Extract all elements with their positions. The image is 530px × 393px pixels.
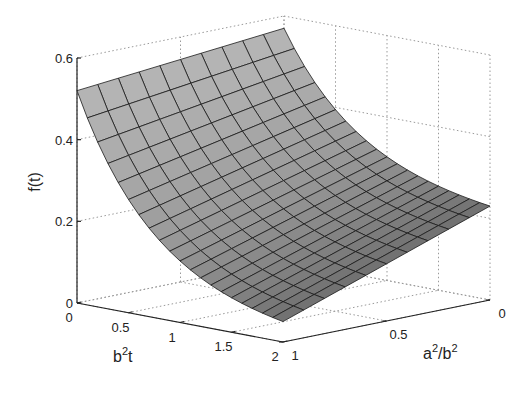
z-tick-label: 0.2 [55, 214, 73, 229]
x-tick [129, 312, 133, 313]
z-axis-label: f(t) [26, 172, 43, 192]
y-axis-label: a2/b2 [423, 342, 458, 362]
z-tick-label: 0.4 [55, 133, 73, 148]
plot-canvas: 00.20.40.600.511.5200.51 f(t) b2t a2/b2 [0, 0, 530, 393]
surface-mesh [77, 28, 490, 321]
x-tick-label: 2 [271, 349, 278, 364]
x-tick [232, 331, 236, 332]
y-tick-label: 1 [291, 348, 298, 363]
x-tick-label: 1 [168, 330, 175, 345]
grid-line [284, 16, 490, 55]
surface-plot-figure: 00.20.40.600.511.5200.51 f(t) b2t a2/b2 [0, 0, 530, 393]
x-tick-label: 1.5 [214, 339, 232, 354]
x-tick-label: 0.5 [111, 320, 129, 335]
y-tick-label: 0 [498, 306, 505, 321]
y-tick-label: 0.5 [389, 327, 407, 342]
x-tick [180, 322, 184, 323]
x-axis-label: b2t [113, 345, 133, 365]
z-tick-label: 0 [66, 296, 73, 311]
z-tick-label: 0.6 [55, 51, 73, 66]
x-tick-label: 0 [65, 310, 72, 325]
